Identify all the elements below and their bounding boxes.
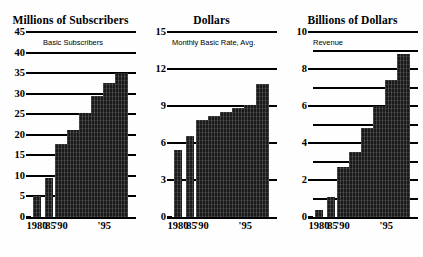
axis-tick bbox=[409, 31, 418, 33]
axis-tick-inner bbox=[308, 142, 313, 144]
axis-tick-inner bbox=[26, 154, 31, 156]
axis-tick-inner bbox=[167, 105, 172, 107]
axis-tick bbox=[409, 105, 418, 107]
axis-tick-inner bbox=[26, 113, 31, 115]
bar bbox=[115, 73, 128, 217]
gridline bbox=[31, 31, 127, 33]
axis-tick bbox=[127, 72, 136, 74]
axis-tick-inner bbox=[26, 134, 31, 136]
axis-tick-inner bbox=[308, 31, 313, 33]
y-axis-label: 3 bbox=[161, 175, 166, 186]
chart-title: Billions of Dollars bbox=[282, 14, 423, 26]
y-axis-label: 10 bbox=[15, 171, 26, 182]
gridline bbox=[313, 31, 409, 33]
y-axis-label: 6 bbox=[161, 138, 166, 149]
axis-tick bbox=[409, 179, 418, 181]
bar bbox=[55, 144, 68, 217]
axis-tick bbox=[127, 175, 136, 177]
axis-tick-inner bbox=[308, 68, 313, 70]
bar bbox=[232, 108, 245, 217]
y-axis-label: 5 bbox=[20, 191, 25, 202]
gridline bbox=[313, 68, 409, 70]
chart-title: Dollars bbox=[141, 14, 282, 26]
gridline bbox=[31, 52, 127, 54]
y-axis-label: 20 bbox=[15, 130, 26, 141]
y-axis-label: 45 bbox=[15, 27, 26, 38]
bar bbox=[208, 116, 221, 217]
axis-tick bbox=[127, 195, 136, 197]
axis-tick bbox=[409, 161, 418, 163]
figure-canvas: Millions of Subscribers05101520253035404… bbox=[0, 0, 423, 257]
axis-tick-inner bbox=[26, 93, 31, 95]
axis-tick bbox=[127, 93, 136, 95]
chart-panel-revenue: Billions of Dollars0246810Revenue1980'85… bbox=[282, 0, 423, 257]
axis-tick bbox=[409, 142, 418, 144]
x-axis-label: '90 bbox=[195, 221, 208, 232]
y-axis-label: 12 bbox=[156, 64, 167, 75]
y-axis-label: 4 bbox=[302, 138, 307, 149]
bar bbox=[337, 167, 350, 217]
x-axis-labels: 1980'85'90'95 bbox=[313, 221, 423, 237]
x-axis-labels: 1980'85'90'95 bbox=[172, 221, 282, 237]
axis-tick bbox=[127, 134, 136, 136]
axis-tick-inner bbox=[167, 179, 172, 181]
y-axis-label: 10 bbox=[297, 27, 308, 38]
bar bbox=[186, 136, 194, 217]
axis-tick-inner bbox=[26, 195, 31, 197]
axis-tick bbox=[268, 31, 277, 33]
bar bbox=[315, 210, 323, 217]
bar bbox=[33, 196, 41, 217]
plot-area: 0246810Revenue bbox=[313, 32, 409, 217]
axis-tick bbox=[268, 179, 277, 181]
x-axis-line bbox=[26, 217, 136, 219]
axis-tick bbox=[268, 142, 277, 144]
bar bbox=[220, 112, 233, 217]
y-axis-label: 40 bbox=[15, 47, 26, 58]
axis-tick-inner bbox=[26, 31, 31, 33]
plot-area: 051015202530354045Basic Subscribers bbox=[31, 32, 127, 217]
y-axis-label: 6 bbox=[302, 101, 307, 112]
axis-tick-inner bbox=[167, 68, 172, 70]
y-axis-label: 2 bbox=[302, 175, 307, 186]
axis-tick bbox=[409, 124, 418, 126]
axis-tick-inner bbox=[167, 31, 172, 33]
series-legend-label: Monthly Basic Rate, Avg. bbox=[172, 39, 255, 47]
bar bbox=[45, 178, 53, 217]
x-axis-label: '90 bbox=[336, 221, 349, 232]
x-axis-line bbox=[167, 217, 277, 219]
x-axis-labels: 1980'85'90'95 bbox=[31, 221, 141, 237]
y-axis-label: 9 bbox=[161, 101, 166, 112]
axis-tick bbox=[127, 154, 136, 156]
chart-title: Millions of Subscribers bbox=[0, 14, 141, 26]
y-axis-label: 0 bbox=[302, 212, 307, 223]
bar bbox=[397, 54, 410, 217]
y-axis-label: 15 bbox=[15, 150, 26, 161]
gridline-minor bbox=[313, 50, 409, 52]
y-axis-label: 30 bbox=[15, 88, 26, 99]
axis-tick bbox=[409, 68, 418, 70]
bar bbox=[385, 80, 398, 217]
axis-tick-inner bbox=[308, 105, 313, 107]
axis-tick bbox=[409, 87, 418, 89]
gridline bbox=[172, 31, 268, 33]
bar bbox=[103, 83, 116, 217]
bar bbox=[67, 130, 80, 217]
bar bbox=[174, 150, 182, 217]
series-legend-label: Basic Subscribers bbox=[43, 39, 103, 47]
y-axis-label: 0 bbox=[161, 212, 166, 223]
axis-tick-inner bbox=[26, 72, 31, 74]
axis-tick-inner bbox=[167, 142, 172, 144]
x-axis-line bbox=[308, 217, 418, 219]
y-axis-label: 25 bbox=[15, 109, 26, 120]
axis-tick-inner bbox=[26, 52, 31, 54]
bar bbox=[349, 152, 362, 217]
bar bbox=[196, 120, 209, 217]
axis-tick bbox=[268, 105, 277, 107]
x-axis-label: '95 bbox=[379, 221, 392, 232]
y-axis-label: 0 bbox=[20, 212, 25, 223]
x-axis-label: '95 bbox=[238, 221, 251, 232]
bar bbox=[91, 96, 104, 217]
bar bbox=[244, 105, 257, 217]
axis-tick-inner bbox=[26, 175, 31, 177]
y-axis-label: 8 bbox=[302, 64, 307, 75]
